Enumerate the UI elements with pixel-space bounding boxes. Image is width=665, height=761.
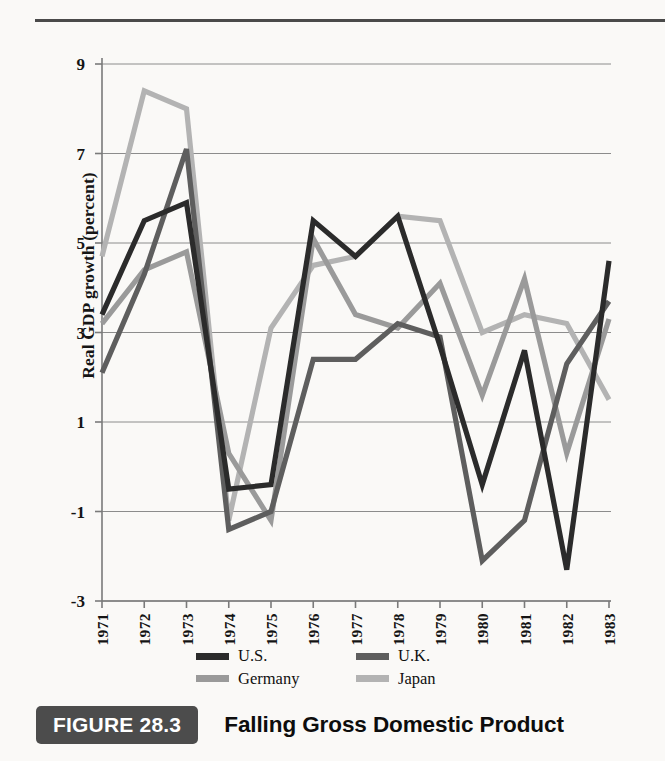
chart-legend: U.S.U.K.GermanyJapan <box>196 648 526 687</box>
x-tick-label: 1983 <box>601 613 619 646</box>
legend-label-germany: Germany <box>238 671 299 688</box>
legend-label-uk: U.K. <box>398 648 430 665</box>
y-tick-label: 3 <box>45 325 85 342</box>
figure-caption: FIGURE 28.3 Falling Gross Domestic Produ… <box>36 706 564 744</box>
x-tick-label: 1978 <box>390 613 408 646</box>
x-tick-label: 1972 <box>136 613 154 646</box>
figure-number-badge: FIGURE 28.3 <box>36 706 198 744</box>
figure-title: Falling Gross Domestic Product <box>224 714 564 737</box>
x-tick-label: 1976 <box>305 613 323 646</box>
legend-item-germany: Germany <box>196 671 356 688</box>
line-chart-plot <box>0 0 665 640</box>
y-tick-label: 9 <box>45 56 85 73</box>
x-tick-label: 1980 <box>474 613 492 646</box>
y-tick-label: -1 <box>45 504 85 521</box>
x-tick-label: 1979 <box>432 613 450 646</box>
legend-item-us: U.S. <box>196 648 356 665</box>
y-tick-label: 1 <box>45 414 85 431</box>
figure-page: Real GDP growth (percent) 97531-1-3 1971… <box>0 0 665 761</box>
chart-container: Real GDP growth (percent) 97531-1-3 1971… <box>0 0 665 640</box>
legend-label-japan: Japan <box>398 671 436 688</box>
legend-swatch-uk <box>356 653 389 660</box>
x-tick-label: 1975 <box>263 613 281 646</box>
y-tick-label: 5 <box>45 235 85 252</box>
legend-swatch-germany <box>196 675 229 682</box>
legend-item-japan: Japan <box>356 671 516 688</box>
y-tick-label: -3 <box>45 593 85 610</box>
y-tick-label: 7 <box>45 146 85 163</box>
legend-swatch-us <box>196 653 229 660</box>
x-tick-label: 1981 <box>517 613 535 646</box>
series-line-uk <box>102 149 609 561</box>
legend-label-us: U.S. <box>238 648 267 665</box>
legend-swatch-japan <box>356 675 389 682</box>
x-tick-label: 1973 <box>179 613 197 646</box>
x-tick-label: 1974 <box>221 613 239 646</box>
series-line-germany <box>102 239 609 521</box>
x-tick-label: 1982 <box>559 613 577 646</box>
legend-item-uk: U.K. <box>356 648 516 665</box>
x-tick-label: 1977 <box>348 613 366 646</box>
x-tick-label: 1971 <box>94 613 112 646</box>
